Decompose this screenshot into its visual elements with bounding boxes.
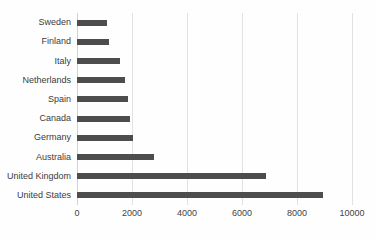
- bar-finland: [77, 39, 109, 45]
- category-label: Germany: [0, 132, 71, 143]
- bar-sweden: [77, 20, 107, 26]
- category-label: Canada: [0, 113, 71, 124]
- plot-area: 0200040006000800010000SwedenFinlandItaly…: [0, 0, 377, 239]
- category-label: Netherlands: [0, 75, 71, 86]
- category-label: Australia: [0, 152, 71, 163]
- bar-united-kingdom: [77, 173, 266, 179]
- x-tick-label: 6000: [220, 208, 264, 218]
- bar-germany: [77, 135, 133, 141]
- bar-united-states: [77, 192, 323, 198]
- bar-australia: [77, 154, 154, 160]
- bar-italy: [77, 58, 120, 64]
- bar-spain: [77, 96, 128, 102]
- category-label: United States: [0, 190, 71, 201]
- bar-canada: [77, 116, 130, 122]
- category-label: Italy: [0, 56, 71, 67]
- x-tick-label: 8000: [275, 208, 319, 218]
- x-gridline: [352, 13, 353, 205]
- x-tick-label: 0: [55, 208, 99, 218]
- x-tick-label: 10000: [330, 208, 374, 218]
- category-label: Spain: [0, 94, 71, 105]
- category-label: Finland: [0, 36, 71, 47]
- category-label: United Kingdom: [0, 171, 71, 182]
- x-tick-label: 2000: [110, 208, 154, 218]
- x-gridline: [297, 13, 298, 205]
- x-tick-label: 4000: [165, 208, 209, 218]
- bar-chart-figure: 0200040006000800010000SwedenFinlandItaly…: [0, 0, 377, 239]
- bar-netherlands: [77, 77, 125, 83]
- category-label: Sweden: [0, 17, 71, 28]
